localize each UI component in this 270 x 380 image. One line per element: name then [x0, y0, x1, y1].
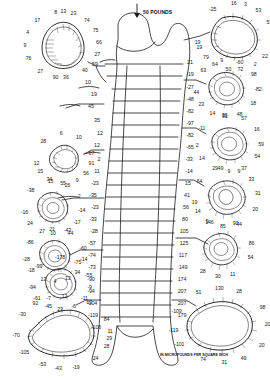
section-callout-value: -70: [12, 333, 19, 338]
shaft-value-right: 80: [182, 217, 188, 222]
section-callout-value: 9: [228, 169, 231, 174]
shaft-value-left: -23: [91, 205, 99, 210]
shaft-value-left: 12: [97, 131, 103, 136]
shaft-value-left: -28: [90, 229, 98, 234]
shaft-value-right: -82: [186, 109, 194, 114]
section-callout-value: 98: [260, 305, 266, 310]
section-left-3: [37, 191, 69, 224]
figure-canvas: 50 POUNDS IN MICROPOUNDS PER SQUARE INCH…: [0, 0, 270, 380]
shaft-value-right: -48: [186, 97, 194, 102]
shaft-value-left: -23: [91, 181, 99, 186]
section-callout-value: 40: [82, 68, 88, 73]
section-callout-value: 207: [265, 322, 270, 327]
section-callout-value: 67: [89, 151, 95, 156]
section-callout-value: 23: [71, 11, 77, 16]
section-callout-value: 19: [192, 200, 198, 205]
section-callout-value: 54: [248, 255, 254, 260]
shaft-value-left: -74: [88, 253, 96, 258]
section-callout-value: -6: [71, 305, 75, 310]
section-callout-value: -18: [27, 268, 34, 273]
section-callout-value: 54: [255, 154, 261, 159]
section-callout-value: 63: [87, 301, 93, 306]
section-callout-value: 79: [203, 56, 209, 61]
femur-line-art: [0, 0, 270, 380]
section-callout-value: 74: [200, 358, 206, 363]
section-callout-value: 92: [33, 301, 39, 306]
section-callout-value: 27: [39, 229, 45, 234]
section-callout-value: 23: [199, 102, 205, 107]
shaft-value-right: 21: [187, 60, 193, 65]
section-callout-value: 27: [38, 69, 44, 74]
section-callout-value: -94: [29, 285, 36, 290]
shaft-value-left: -106: [91, 325, 101, 330]
shaft-value-left: 2: [98, 157, 101, 162]
section-callout-value: 16: [231, 1, 237, 6]
section-callout-value: 57: [241, 117, 247, 122]
section-callout-value: -11: [198, 127, 205, 132]
section-callout-value: -101: [174, 342, 184, 347]
shaft-value-right: -97: [186, 121, 194, 126]
section-callout-value: 14: [210, 111, 216, 116]
section-callout-value: 86: [249, 241, 255, 246]
section-right-5: [202, 231, 241, 270]
section-callout-value: 64: [212, 62, 218, 67]
section-callout-value: 28: [104, 344, 110, 349]
section-callout-value: 8: [54, 10, 57, 15]
shaft-value-right: 117: [179, 253, 187, 258]
section-callout-value: 44: [68, 231, 74, 236]
shaft-value-left: -33: [89, 217, 97, 222]
section-callout-value: 130: [215, 286, 223, 291]
shaft-value-right: 15: [185, 181, 191, 186]
section-right-4: [206, 179, 247, 219]
shaft-value-left: -119: [88, 313, 98, 318]
shaft-value-left: 59: [92, 62, 98, 67]
section-callout-value: 4: [54, 279, 57, 284]
section-callout-value: 39: [222, 114, 228, 119]
section-callout-value: -55: [85, 273, 92, 278]
shaft-value-left: 10: [85, 80, 91, 85]
section-callout-value: 12: [34, 162, 40, 167]
section-callout-value: 66: [96, 40, 102, 45]
section-right-3: [210, 127, 249, 164]
section-callout-value: -86: [26, 240, 33, 245]
shaft-value-right: 105: [180, 229, 189, 234]
section-callout-value: 49: [218, 167, 224, 172]
section-callout-value: 31: [255, 191, 261, 196]
section-callout-value: 24: [27, 221, 33, 226]
section-callout-value: -45: [45, 305, 52, 310]
section-callout-value: -9: [87, 285, 91, 290]
shaft-value-right: 56: [183, 205, 189, 210]
section-callout-value: 72: [238, 67, 244, 72]
section-callout-value: 2: [78, 194, 81, 199]
section-callout-value: 75: [93, 28, 99, 33]
section-callout-value: -82: [254, 87, 261, 92]
section-callout-value: -30: [19, 312, 26, 317]
section-callout-value: 2: [254, 62, 257, 67]
section-callout-value: 27: [94, 53, 100, 58]
shaft-value-left: 35: [94, 118, 100, 123]
shaft-value-left: 45: [88, 104, 94, 109]
section-callout-value: 28: [40, 140, 46, 145]
section-callout-value: 24: [93, 356, 99, 361]
section-callout-value: -105: [19, 350, 29, 355]
section-callout-value: 49: [241, 356, 247, 361]
shaft-value-right: 41: [184, 193, 190, 198]
shaft-value-right: 149: [179, 265, 188, 270]
section-callout-value: 18: [251, 101, 257, 106]
section-callout-value: 30: [215, 274, 221, 279]
section-callout-value: -14: [78, 208, 85, 213]
section-callout-value: 44: [194, 90, 200, 95]
section-callout-value: 13: [40, 277, 46, 282]
section-callout-value: 59: [258, 142, 264, 147]
section-callout-value: -16: [21, 210, 28, 215]
section-callout-value: 11: [230, 272, 235, 277]
section-callout-value: 13: [61, 9, 67, 14]
shaft-value-left: 12: [94, 143, 100, 148]
section-right-1: [211, 13, 261, 61]
section-callout-value: 64: [197, 179, 203, 184]
section-callout-value: 85: [220, 224, 226, 229]
section-callout-value: 29: [107, 337, 113, 342]
section-callout-value: -119: [169, 328, 179, 333]
shaft-value-left: -35: [89, 193, 97, 198]
section-callout-value: 9: [238, 169, 241, 174]
